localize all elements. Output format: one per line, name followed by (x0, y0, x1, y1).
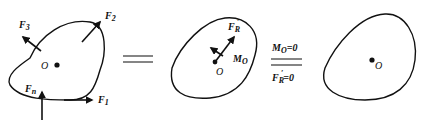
point-o-icon (54, 62, 59, 67)
force-f2-label: F2 (104, 10, 116, 23)
condition-force-zero: FR′=0 (271, 69, 294, 85)
point-o-label: O (41, 60, 48, 71)
force-fn-label: Fn (24, 83, 37, 96)
equivalence-sign (123, 56, 153, 62)
point-o-label: O (216, 66, 223, 77)
body-equilibrium: O (324, 14, 416, 100)
force-f1-label: F1 (97, 94, 109, 107)
point-o-label: O (375, 60, 382, 71)
resultant-force-label: FR′ (227, 18, 241, 34)
condition-moment-zero: MO=0 (271, 42, 297, 55)
resultant-force-arrow-icon (215, 37, 234, 62)
point-o-icon (369, 57, 374, 62)
equilibrium-conditions: MO=0 FR′=0 (271, 42, 302, 85)
force-f2-arrow-icon (82, 22, 100, 42)
body-reduced: O FR′ MO (171, 18, 256, 98)
moment-label: MO (232, 53, 248, 66)
statics-diagram: O F2 F3 F1 Fn O FR′ MO MO=0 FR′=0 (0, 0, 423, 120)
force-f3-label: F3 (18, 19, 30, 32)
moment-arrow-icon (211, 48, 223, 56)
body-original: O F2 F3 F1 Fn (9, 10, 116, 120)
